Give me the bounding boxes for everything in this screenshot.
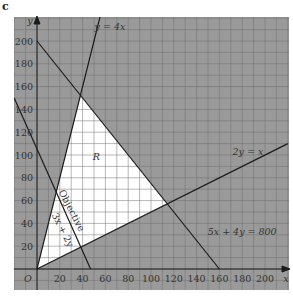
x-tick-label: 40 [77,273,89,284]
y-tick-label: 40 [21,218,33,229]
origin-label: O [24,273,32,284]
x-tick-label: 160 [210,273,228,284]
annotation-2y-x: 2y = x [232,146,264,157]
y-tick-label: 200 [15,36,33,47]
y-tick-label: 160 [15,81,33,92]
y-tick-label: 120 [15,127,33,138]
y-tick-label: 80 [21,172,33,183]
x-tick-label: 140 [188,273,206,284]
x-axis-label: x [283,273,289,284]
x-tick-label: 180 [233,273,251,284]
annotation-5x-4y-800: 5x + 4y = 800 [208,226,277,237]
x-tick-label: 120 [165,273,183,284]
y-tick-label: 180 [15,58,33,69]
annotation-y-4x: y = 4x [94,21,126,32]
x-tick-label: 100 [142,273,160,284]
linear-programming-graph: 2040608010012014016018020020406080100120… [0,0,293,300]
y-axis-label: y [26,15,33,26]
annotation-r: R [92,151,100,162]
y-tick-label: 60 [21,195,33,206]
y-tick-label: 100 [15,150,33,161]
y-tick-label: 20 [21,241,33,252]
y-tick-label: 140 [15,104,33,115]
x-tick-label: 20 [54,273,66,284]
x-tick-label: 80 [122,273,134,284]
x-tick-label: 200 [256,273,274,284]
x-tick-label: 60 [99,273,111,284]
